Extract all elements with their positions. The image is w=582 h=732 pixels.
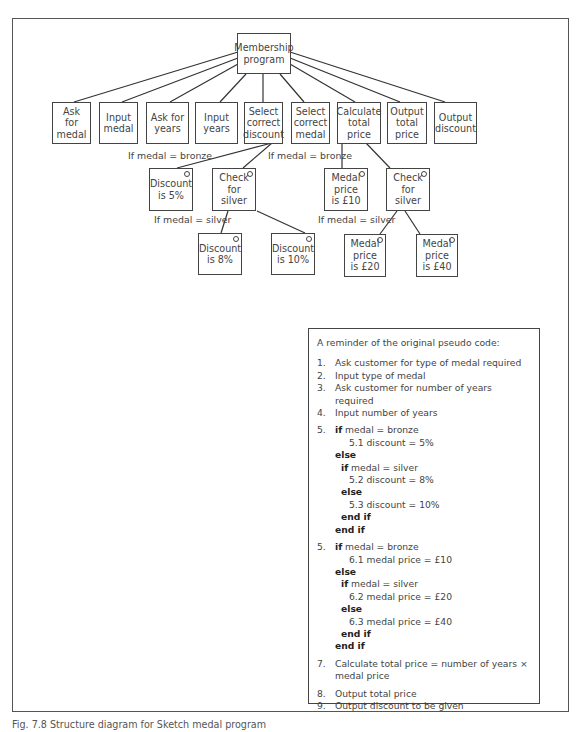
node-input-medal: Input medal: [99, 102, 138, 144]
pseudo-line: 1.Ask customer for type of medal require…: [317, 357, 531, 369]
keyword: end if: [335, 628, 452, 640]
node-calculate-total-price: Calculate total price: [337, 102, 381, 144]
node-label: Medal price is £10: [331, 172, 360, 207]
line-text: 5.3 discount = 10%: [335, 499, 440, 511]
line-number: 7.: [317, 658, 335, 683]
pseudo-line: 9.Output discount to be given: [317, 700, 531, 712]
selection-circle-icon: [184, 171, 190, 177]
line-text: Ask customer for type of medal required: [335, 357, 521, 369]
node-ask-for-years: Ask for years: [146, 102, 189, 144]
line-text: medal = silver: [348, 462, 418, 473]
line-number: 3.: [317, 382, 335, 407]
keyword: end if: [335, 524, 440, 536]
line-text: Input type of medal: [335, 370, 426, 382]
node-label: Select correct medal: [294, 106, 328, 141]
node-label: Check for silver: [393, 172, 423, 207]
condition-label: If medal = bronze: [128, 150, 212, 161]
pseudo-line: 8.Output total price: [317, 688, 531, 700]
line-number: 5.: [317, 424, 335, 536]
node-label: Membership program: [234, 42, 293, 65]
node-label: Medal price is £20: [350, 238, 379, 273]
node-output-discount: Output discount: [434, 102, 477, 144]
node-discount-5: Discount is 5%: [149, 168, 193, 211]
line-number: 9.: [317, 700, 335, 712]
node-label: Ask for years: [151, 112, 184, 135]
selection-circle-icon: [449, 237, 455, 243]
selection-circle-icon: [247, 171, 253, 177]
node-label: Discount is 10%: [272, 243, 314, 266]
line-text: medal = bronze: [342, 424, 418, 435]
node-ask-for-medal: Ask for medal: [52, 102, 91, 144]
line-text: 6.3 medal price = £40: [335, 616, 452, 628]
node-label: Output discount: [435, 112, 476, 135]
node-label: Discount is 5%: [150, 178, 192, 201]
line-number: 5.: [317, 541, 335, 653]
node-input-years: Input years: [195, 102, 238, 144]
pseudo-block-5: 5. if medal = bronze 5.1 discount = 5% e…: [317, 424, 531, 536]
selection-circle-icon: [306, 236, 312, 242]
line-text: 6.2 medal price = £20: [335, 591, 452, 603]
pseudo-block-6: 5. if medal = bronze 6.1 medal price = £…: [317, 541, 531, 653]
node-label: Ask for medal: [57, 106, 87, 141]
pseudo-line: 7.Calculate total price = number of year…: [317, 658, 531, 683]
selection-circle-icon: [233, 236, 239, 242]
keyword: else: [335, 603, 452, 615]
pseudo-line: 4.Input number of years: [317, 407, 531, 419]
keyword: end if: [335, 511, 440, 523]
node-label: Medal price is £40: [422, 238, 451, 273]
selection-circle-icon: [377, 237, 383, 243]
line-text: Input number of years: [335, 407, 438, 419]
pseudo-code-panel: A reminder of the original pseudo code: …: [308, 328, 540, 704]
keyword: else: [335, 449, 440, 461]
selection-circle-icon: [359, 171, 365, 177]
line-text: 5.1 discount = 5%: [335, 437, 440, 449]
keyword: else: [335, 486, 440, 498]
selection-circle-icon: [421, 171, 427, 177]
node-discount-8: Discount is 8%: [198, 233, 242, 275]
figure-caption: Fig. 7.8 Structure diagram for Sketch me…: [12, 719, 266, 730]
pseudo-line: 2.Input type of medal: [317, 370, 531, 382]
line-text: Ask customer for number of years require…: [335, 382, 531, 407]
keyword: end if: [335, 640, 452, 652]
condition-label: If medal = silver: [318, 214, 395, 225]
line-text: Output discount to be given: [335, 700, 464, 712]
node-medal-price-10: Medal price is £10: [324, 168, 368, 211]
line-text: 5.2 discount = 8%: [335, 474, 440, 486]
line-number: 1.: [317, 357, 335, 369]
node-label: Calculate total price: [337, 106, 382, 141]
line-text: Output total price: [335, 688, 417, 700]
node-output-total-price: Output total price: [387, 102, 427, 144]
pseudo-code-title: A reminder of the original pseudo code:: [317, 337, 531, 349]
node-label: Input years: [203, 112, 229, 135]
line-number: 4.: [317, 407, 335, 419]
line-text: Calculate total price = number of years …: [335, 658, 531, 683]
node-medal-price-40: Medal price is £40: [416, 234, 458, 277]
node-label: Check for silver: [219, 172, 249, 207]
node-check-for-silver-medal: Check for silver: [386, 168, 430, 211]
keyword: else: [335, 566, 452, 578]
condition-label: If medal = silver: [154, 214, 231, 225]
node-medal-price-20: Medal price is £20: [344, 234, 386, 277]
line-number: 8.: [317, 688, 335, 700]
node-label: Select correct discount: [243, 106, 284, 141]
node-check-for-silver-discount: Check for silver: [212, 168, 256, 211]
node-select-correct-discount: Select correct discount: [244, 102, 283, 144]
line-text: 6.1 medal price = £10: [335, 554, 452, 566]
line-number: 2.: [317, 370, 335, 382]
node-discount-10: Discount is 10%: [271, 233, 315, 275]
node-label: Input medal: [104, 112, 134, 135]
node-select-correct-medal: Select correct medal: [291, 102, 330, 144]
condition-label: If medal = bronze: [268, 150, 352, 161]
line-text: medal = silver: [348, 578, 418, 589]
node-label: Discount is 8%: [199, 243, 241, 266]
node-label: Output total price: [390, 106, 423, 141]
pseudo-line: 3.Ask customer for number of years requi…: [317, 382, 531, 407]
root-node-membership-program: Membership program: [237, 33, 291, 74]
line-text: medal = bronze: [342, 541, 418, 552]
